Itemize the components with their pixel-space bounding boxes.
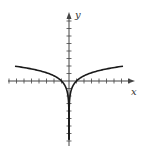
curve-right-branch [69, 66, 123, 139]
y-axis-label: y [74, 9, 81, 20]
curve-left-branch [15, 66, 69, 139]
x-axis-label: x [131, 86, 137, 97]
x-axis-arrow-icon [128, 79, 135, 84]
y-axis-arrow-icon [67, 12, 72, 19]
graph: y x [0, 0, 150, 154]
